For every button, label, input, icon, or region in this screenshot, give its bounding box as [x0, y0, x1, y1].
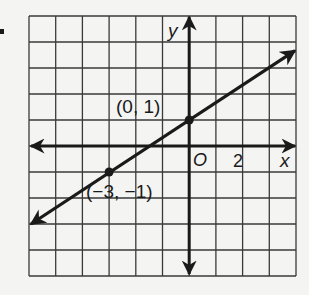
x-axis-label: x — [279, 150, 291, 171]
plotted-point — [105, 168, 114, 177]
origin-label: O — [193, 150, 207, 170]
x-tick-label-2: 2 — [233, 151, 243, 171]
point-label-neg3-neg1: (−3, −1) — [86, 181, 153, 202]
coordinate-plane: y x O 2 (0, 1) (−3, −1) — [0, 0, 309, 295]
point-label-0-1: (0, 1) — [116, 96, 160, 117]
plotted-point — [185, 116, 194, 125]
y-axis-label: y — [166, 20, 179, 41]
